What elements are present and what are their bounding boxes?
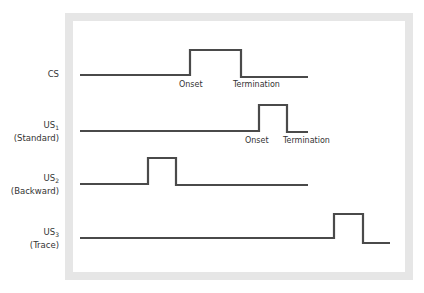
cs-signal-line	[80, 50, 308, 77]
us1-label-main: US	[44, 120, 56, 130]
us1-label-desc: (Standard)	[0, 133, 59, 144]
us3-label-desc: (Trace)	[0, 240, 59, 251]
us3-signal-line	[80, 214, 390, 243]
us2-label-sub: 2	[55, 177, 59, 184]
cs-label-text: CS	[48, 69, 59, 79]
us1-signal-line	[80, 105, 308, 132]
us2-label: US2 (Backward)	[0, 173, 59, 197]
cs-termination-annotation: Termination	[233, 80, 280, 89]
cs-label: CS	[0, 69, 59, 80]
us3-label-sub: 3	[55, 231, 59, 238]
us2-label-desc: (Backward)	[0, 186, 59, 197]
us1-label: US1 (Standard)	[0, 120, 59, 144]
us2-signal-line	[80, 158, 308, 185]
us3-label: US3 (Trace)	[0, 227, 59, 251]
cs-onset-annotation: Onset	[179, 80, 203, 89]
us2-label-main: US	[44, 173, 56, 183]
timing-diagram	[0, 0, 424, 293]
us1-onset-annotation: Onset	[245, 136, 269, 145]
us1-termination-annotation: Termination	[283, 136, 330, 145]
us3-label-main: US	[44, 227, 56, 237]
us1-label-sub: 1	[55, 124, 59, 131]
